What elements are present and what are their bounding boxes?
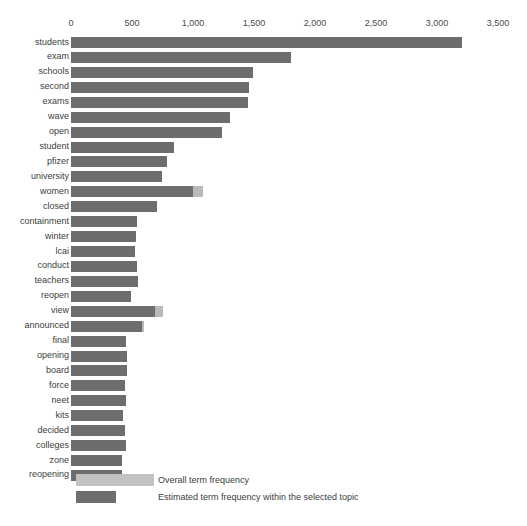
bar-estimated-frequency: [71, 201, 157, 212]
bar-category-label[interactable]: announced: [24, 320, 69, 331]
bar-estimated-frequency: [71, 291, 131, 302]
x-axis-tick-label: 3,000: [426, 18, 449, 29]
bar-category-label[interactable]: conduct: [37, 260, 69, 271]
legend-label-estimated: Estimated term frequency within the sele…: [158, 491, 359, 503]
bar-category-label[interactable]: reopen: [41, 290, 69, 301]
bar-row[interactable]: students: [0, 36, 527, 51]
bar-row[interactable]: open: [0, 126, 527, 141]
bar-row[interactable]: exam: [0, 51, 527, 66]
bar-estimated-frequency: [71, 276, 138, 287]
bar-estimated-frequency: [71, 336, 126, 347]
bar-estimated-frequency: [71, 231, 136, 242]
bar-estimated-frequency: [71, 52, 291, 63]
bar-row[interactable]: opening: [0, 350, 527, 365]
bar-estimated-frequency: [71, 455, 122, 466]
bar-row[interactable]: closed: [0, 200, 527, 215]
x-axis: 05001,0001,5002,0002,5003,0003,500: [0, 18, 527, 32]
bar-estimated-frequency: [71, 425, 125, 436]
bar-category-label[interactable]: students: [35, 37, 69, 48]
bar-row[interactable]: student: [0, 141, 527, 156]
bar-category-label[interactable]: neet: [51, 395, 69, 406]
bar-category-label[interactable]: closed: [43, 201, 69, 212]
bar-row[interactable]: wave: [0, 111, 527, 126]
bar-row[interactable]: decided: [0, 424, 527, 439]
bar-estimated-frequency: [71, 112, 230, 123]
bar-category-label[interactable]: decided: [37, 425, 69, 436]
bar-category-label[interactable]: women: [40, 186, 69, 197]
bar-category-label[interactable]: university: [31, 171, 69, 182]
term-frequency-chart: 05001,0001,5002,0002,5003,0003,500 stude…: [0, 0, 527, 526]
bar-row[interactable]: board: [0, 364, 527, 379]
bar-category-label[interactable]: colleges: [36, 440, 69, 451]
bar-estimated-frequency: [71, 440, 126, 451]
bar-category-label[interactable]: kits: [56, 410, 70, 421]
bar-row[interactable]: women: [0, 185, 527, 200]
x-axis-tick-label: 500: [124, 18, 139, 29]
bar-category-label[interactable]: teachers: [34, 275, 69, 286]
bar-row[interactable]: schools: [0, 66, 527, 81]
bar-row[interactable]: conduct: [0, 260, 527, 275]
bar-row[interactable]: exams: [0, 96, 527, 111]
bar-estimated-frequency: [71, 216, 137, 227]
bar-row[interactable]: neet: [0, 394, 527, 409]
bar-estimated-frequency: [71, 410, 123, 421]
bar-estimated-frequency: [71, 351, 127, 362]
bar-estimated-frequency: [71, 142, 174, 153]
legend-label-overall: Overall term frequency: [158, 474, 249, 486]
bar-estimated-frequency: [71, 171, 162, 182]
bar-category-label[interactable]: exams: [42, 96, 69, 107]
bar-row[interactable]: announced: [0, 320, 527, 335]
x-axis-tick-label: 1,500: [243, 18, 266, 29]
x-axis-tick-label: 3,500: [487, 18, 510, 29]
bar-estimated-frequency: [71, 261, 137, 272]
bar-category-label[interactable]: view: [51, 305, 69, 316]
bar-category-label[interactable]: second: [40, 81, 69, 92]
bar-row[interactable]: lcai: [0, 245, 527, 260]
bar-category-label[interactable]: student: [39, 141, 69, 152]
bar-row[interactable]: zone: [0, 454, 527, 469]
bar-estimated-frequency: [71, 380, 125, 391]
bar-row[interactable]: view: [0, 305, 527, 320]
bar-row[interactable]: teachers: [0, 275, 527, 290]
bar-estimated-frequency: [71, 365, 127, 376]
bar-category-label[interactable]: open: [49, 126, 69, 137]
bar-category-label[interactable]: lcai: [55, 246, 69, 257]
bar-category-label[interactable]: wave: [48, 111, 69, 122]
bar-category-label[interactable]: exam: [47, 51, 69, 62]
bar-estimated-frequency: [71, 395, 126, 406]
bar-estimated-frequency: [71, 246, 135, 257]
x-axis-tick-label: 2,500: [365, 18, 388, 29]
bar-plot-area: studentsexamschoolssecondexamswaveopenst…: [0, 36, 527, 456]
legend-swatch-estimated-icon: [76, 491, 116, 503]
bar-row[interactable]: containment: [0, 215, 527, 230]
bar-row[interactable]: pfizer: [0, 155, 527, 170]
bar-category-label[interactable]: containment: [20, 216, 69, 227]
bar-estimated-frequency: [71, 186, 193, 197]
bar-estimated-frequency: [71, 156, 167, 167]
bar-row[interactable]: colleges: [0, 439, 527, 454]
bar-estimated-frequency: [71, 127, 222, 138]
bar-category-label[interactable]: opening: [37, 350, 69, 361]
bar-row[interactable]: final: [0, 335, 527, 350]
x-axis-tick-label: 1,000: [182, 18, 205, 29]
bar-row[interactable]: university: [0, 170, 527, 185]
bar-category-label[interactable]: schools: [38, 66, 69, 77]
chart-legend: Overall term frequency Estimated term fr…: [0, 470, 527, 510]
bar-category-label[interactable]: winter: [45, 231, 69, 242]
x-axis-tick-label: 2,000: [304, 18, 327, 29]
bar-estimated-frequency: [71, 37, 462, 48]
bar-row[interactable]: reopen: [0, 290, 527, 305]
bar-row[interactable]: kits: [0, 409, 527, 424]
x-axis-tick-label: 0: [68, 18, 73, 29]
bar-row[interactable]: winter: [0, 230, 527, 245]
bar-estimated-frequency: [71, 321, 142, 332]
bar-estimated-frequency: [71, 67, 253, 78]
bar-row[interactable]: force: [0, 379, 527, 394]
bar-category-label[interactable]: final: [52, 335, 69, 346]
bar-category-label[interactable]: board: [46, 365, 69, 376]
bar-category-label[interactable]: force: [49, 380, 69, 391]
bar-category-label[interactable]: pfizer: [47, 156, 69, 167]
legend-swatch-overall-icon: [76, 474, 154, 486]
bar-category-label[interactable]: zone: [49, 455, 69, 466]
bar-row[interactable]: second: [0, 81, 527, 96]
